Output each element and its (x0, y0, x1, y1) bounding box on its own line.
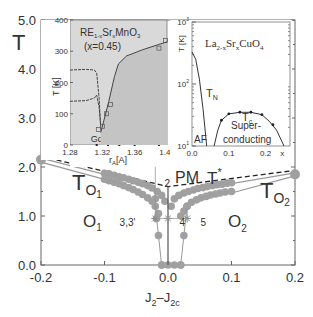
inset1-y-tick-label: 400 (55, 16, 69, 25)
inset2-x-tick-label: x (280, 149, 284, 158)
inset1-x-tick-label: 1.36 (127, 148, 143, 157)
inset2-y-tick-exp: 2 (186, 78, 189, 84)
point-label: 4 (180, 217, 186, 228)
inset-cuprate-af-label: AF (194, 134, 207, 145)
y-tick-label: 1.0 (18, 209, 36, 224)
inset1-element-tick (96, 144, 98, 146)
region-label-pm: PM (175, 169, 199, 186)
main-y-label: T (12, 30, 25, 55)
x-tick-label: 0.1 (222, 270, 240, 285)
inset2-marker (261, 113, 264, 116)
inset2-x-tick-label: 0.0 (186, 149, 198, 158)
x-tick-label: -0.1 (93, 270, 115, 285)
inset1-x-tick-label: 1.28 (62, 148, 78, 157)
data-point (228, 179, 236, 187)
inset2-y-tick-exp: 1 (186, 140, 189, 146)
y-tick-label: 5.0 (18, 13, 36, 28)
data-point (155, 232, 163, 240)
y-tick-label: 4.0 (18, 62, 36, 77)
x-label-j2: J2–J2c (145, 290, 180, 308)
inset1-y-tick-label: 300 (55, 47, 69, 56)
point-label: 2 (164, 178, 170, 189)
inset-cuprate-super-label: Super- (231, 120, 261, 131)
inset2-y-tick-exp: 3 (186, 16, 189, 22)
inset2-marker (227, 112, 230, 115)
inset-cuprate-y-label: T [K] (177, 35, 186, 52)
data-point (180, 232, 188, 240)
x-tick-label: 0.0 (159, 270, 177, 285)
x-tick-label: -0.2 (30, 270, 52, 285)
point-label: 5 (201, 217, 207, 228)
inset-manganite-title: RE1-xSrxMnO3 (80, 27, 141, 39)
data-point (228, 188, 236, 196)
point-label: 3,3' (120, 217, 136, 228)
figure: 0.01.02.03.04.05.0-0.2-0.10.00.10.2 T J2… (0, 0, 313, 317)
inset2-marker (272, 123, 275, 126)
inset1-y-tick-label: 100 (55, 110, 69, 119)
data-point (290, 169, 300, 179)
inset-cuprate-conducting-label: conducting (223, 134, 271, 145)
phase-diagram: 0.01.02.03.04.05.0-0.2-0.10.00.10.2 T J2… (0, 0, 313, 317)
x-tick-label: 0.2 (286, 270, 304, 285)
data-point (177, 261, 185, 269)
inset-manganite-x-label: rA[A] (109, 155, 127, 166)
inset2-marker (249, 111, 252, 114)
inset-manganite-subtitle: (x=0.45) (84, 41, 121, 52)
y-tick-label: 2.0 (18, 160, 36, 175)
inset2-marker (220, 119, 223, 122)
y-tick-label: 3.0 (18, 111, 36, 126)
inset2-marker (238, 111, 241, 114)
inset-manganite-y-label: T [K] (51, 77, 61, 96)
inset2-x-tick-label: 0.1 (223, 149, 235, 158)
inset2-x-tick-label: 0.2 (260, 149, 272, 158)
main-x-label: J2–J2c (145, 290, 180, 308)
